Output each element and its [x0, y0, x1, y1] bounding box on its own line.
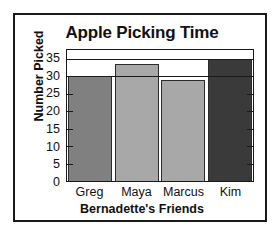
y-tick-label: 5 — [53, 158, 60, 171]
axis-tick — [67, 94, 73, 95]
plot-area — [66, 49, 254, 182]
y-tick-label: 20 — [46, 105, 60, 118]
axis-tick — [67, 59, 73, 60]
bars-layer — [67, 50, 253, 181]
y-tick-label: 0 — [53, 176, 60, 189]
axis-tick — [247, 164, 253, 165]
axis-tick — [67, 76, 73, 77]
x-tick-label: Maya — [114, 185, 158, 199]
x-axis-tick-labels: GregMayaMarcusKim — [66, 185, 254, 199]
gridline — [67, 76, 253, 77]
y-axis-tick-labels: 05101520253035 — [29, 49, 62, 182]
x-tick-label: Kim — [208, 185, 252, 199]
axis-tick — [67, 129, 73, 130]
axis-tick — [67, 164, 73, 165]
axis-tick — [247, 94, 253, 95]
x-axis-title: Bernadette's Friends — [15, 202, 269, 216]
axis-tick — [247, 129, 253, 130]
axis-tick — [67, 146, 73, 147]
bar — [115, 64, 159, 181]
y-tick-label: 10 — [46, 140, 60, 153]
axis-tick — [247, 146, 253, 147]
chart-title: Apple Picking Time — [15, 23, 269, 43]
bar — [161, 80, 205, 181]
bar-slot — [161, 50, 205, 181]
y-tick-label: 15 — [46, 123, 60, 136]
x-tick-label: Greg — [67, 185, 111, 199]
bar — [68, 76, 112, 181]
axis-tick — [247, 111, 253, 112]
chart-figure-frame: Apple Picking Time Number Picked 0510152… — [13, 13, 267, 222]
axis-tick — [247, 59, 253, 60]
bar-slot — [208, 50, 252, 181]
gridline — [67, 59, 253, 60]
x-tick-label: Marcus — [161, 185, 205, 199]
y-tick-label: 30 — [46, 69, 60, 82]
axis-tick — [67, 111, 73, 112]
y-tick-label: 25 — [46, 87, 60, 100]
bar-slot — [68, 50, 112, 181]
bar-slot — [115, 50, 159, 181]
axis-tick — [247, 76, 253, 77]
y-tick-label: 35 — [46, 52, 60, 65]
